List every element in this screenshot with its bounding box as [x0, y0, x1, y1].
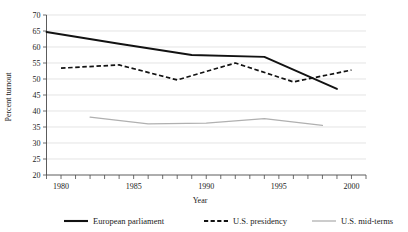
gridlines [47, 15, 367, 159]
x-tick-label: 1980 [53, 182, 69, 191]
legend-label: U.S. presidency [233, 216, 288, 226]
turnout-line-chart: 2025303540455055606570 19801985199019952… [0, 0, 408, 232]
y-tick-label: 55 [33, 59, 41, 68]
y-tick-label: 50 [33, 75, 41, 84]
y-tick-labels: 2025303540455055606570 [33, 11, 41, 180]
x-tick-label: 2000 [343, 182, 359, 191]
x-axis [47, 175, 367, 179]
series-line-european-parliament [47, 32, 337, 89]
x-tick-label: 1995 [271, 182, 287, 191]
x-axis-title: Year [193, 196, 208, 205]
x-tick-label: 1985 [126, 182, 142, 191]
series-line-u-s-mid-terms [90, 117, 322, 125]
chart-container: 2025303540455055606570 19801985199019952… [0, 0, 408, 232]
y-tick-label: 70 [33, 11, 41, 20]
y-tick-label: 60 [33, 43, 41, 52]
y-axis [43, 15, 47, 175]
y-tick-label: 25 [33, 155, 41, 164]
legend-label: U.S. mid-terms [341, 216, 393, 226]
chart-legend: European parliamentU.S. presidencyU.S. m… [64, 216, 393, 226]
y-tick-label: 35 [33, 123, 41, 132]
y-tick-label: 20 [33, 171, 41, 180]
y-tick-label: 40 [33, 107, 41, 116]
x-tick-labels: 19801985199019952000 [53, 182, 359, 191]
legend-label: European parliament [93, 216, 165, 226]
plot-area: 2025303540455055606570 19801985199019952… [0, 0, 408, 232]
y-tick-label: 45 [33, 91, 41, 100]
y-axis-title: Percent turnout [4, 72, 13, 122]
y-tick-label: 30 [33, 139, 41, 148]
y-tick-label: 65 [33, 27, 41, 36]
x-tick-label: 1990 [198, 182, 214, 191]
